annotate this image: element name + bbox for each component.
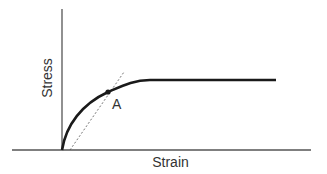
stress-strain-diagram: Stress Strain A (0, 0, 327, 174)
stress-strain-curve (62, 80, 276, 150)
x-axis-label: Strain (0, 154, 327, 170)
point-a-marker (105, 89, 110, 94)
point-a-label: A (112, 96, 121, 112)
y-axis-label: Stress (39, 58, 55, 98)
